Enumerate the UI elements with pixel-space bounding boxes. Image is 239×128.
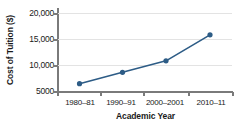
x-tick-mark-0 — [57, 92, 59, 96]
y-tick-label-5000: 5000 — [18, 87, 54, 96]
series-polyline — [80, 35, 211, 84]
y-tick-label-10000: 10,000 — [18, 61, 54, 70]
x-tick-mark-3 — [188, 92, 190, 96]
data-point-1 — [120, 70, 125, 75]
tuition-cost-line-chart: Cost of Tuition ($) 20,000 15,000 10,000… — [0, 0, 239, 128]
x-tick-label-2000-2001: 2000–2001 — [137, 98, 193, 107]
y-axis-tick-labels: 20,000 15,000 10,000 5000 — [18, 0, 54, 100]
data-point-2 — [163, 58, 168, 63]
y-axis-title: Cost of Tuition ($) — [0, 0, 20, 100]
data-series-line — [58, 8, 232, 92]
y-tick-label-15000: 15,000 — [18, 35, 54, 44]
y-axis-title-text: Cost of Tuition ($) — [5, 15, 15, 85]
x-tick-mark-2 — [143, 92, 145, 96]
x-axis-tick-labels: 1980–81 1990–91 2000–2001 2010–11 — [58, 98, 233, 110]
x-axis-title: Academic Year — [58, 111, 233, 121]
data-point-0 — [77, 81, 82, 86]
x-tick-mark-1 — [100, 92, 102, 96]
data-point-3 — [207, 32, 212, 37]
x-tick-mark-4 — [232, 92, 234, 96]
y-tick-label-20000: 20,000 — [18, 9, 54, 18]
x-tick-label-2010-11: 2010–11 — [186, 98, 236, 107]
plot-area — [58, 8, 232, 92]
